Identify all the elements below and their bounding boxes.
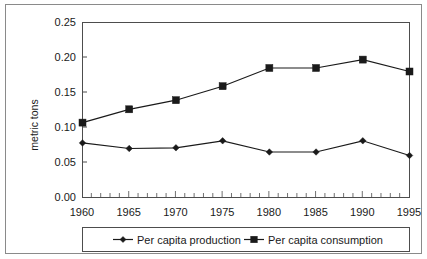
legend-item-2[interactable]: Per capita consumption bbox=[244, 234, 383, 246]
x-axis-minor-ticks bbox=[91, 191, 399, 198]
series-per-capita-consumption bbox=[79, 56, 413, 126]
data-point-1985-square-marker bbox=[313, 65, 320, 72]
line-chart: metric tons 0.25 0.20 0.15 0.10 0.05 0.0… bbox=[0, 0, 427, 259]
y-tick-label-0.10: 0.10 bbox=[55, 121, 76, 133]
data-point-1980-square-marker bbox=[266, 65, 273, 72]
legend-label: Per capita consumption bbox=[268, 234, 383, 246]
square-marker bbox=[251, 236, 258, 243]
legend-label: Per capita production bbox=[137, 234, 241, 246]
data-point-1985-diamond-marker bbox=[313, 149, 320, 156]
series-per-capita-production bbox=[79, 138, 413, 159]
data-point-1965-diamond-marker bbox=[126, 145, 132, 152]
x-tick-label-1980: 1980 bbox=[257, 206, 281, 218]
data-point-1975-square-marker bbox=[219, 83, 226, 90]
x-tick-label-1970: 1970 bbox=[163, 206, 187, 218]
y-tick-label-0.00: 0.00 bbox=[55, 191, 76, 203]
x-tick-label-1985: 1985 bbox=[303, 206, 327, 218]
data-point-1995-square-marker bbox=[406, 68, 413, 75]
data-point-1975-diamond-marker bbox=[219, 138, 226, 145]
legend-item-1[interactable]: Per capita production bbox=[113, 234, 241, 246]
data-point-1970-diamond-marker bbox=[173, 145, 180, 152]
x-tick-label-1975: 1975 bbox=[210, 206, 234, 218]
y-axis-title: metric tons bbox=[28, 99, 40, 150]
chart-figure: metric tons 0.25 0.20 0.15 0.10 0.05 0.0… bbox=[0, 0, 427, 259]
data-point-1995-diamond-marker bbox=[406, 152, 413, 159]
x-tick-label-1990: 1990 bbox=[350, 206, 374, 218]
data-point-1970-square-marker bbox=[172, 97, 179, 104]
y-tick-label-0.25: 0.25 bbox=[55, 16, 76, 28]
x-tick-label-1960: 1960 bbox=[70, 206, 94, 218]
y-tick-label-0.05: 0.05 bbox=[55, 156, 76, 168]
data-point-1990-diamond-marker bbox=[360, 138, 367, 145]
x-tick-label-1965: 1965 bbox=[116, 206, 140, 218]
data-point-1990-square-marker bbox=[359, 56, 366, 63]
diamond-marker bbox=[120, 237, 126, 243]
y-tick-label-0.15: 0.15 bbox=[55, 86, 76, 98]
data-point-1965-square-marker bbox=[126, 106, 133, 113]
x-tick-label-1995: 1995 bbox=[397, 206, 421, 218]
data-point-1960-square-marker bbox=[79, 119, 86, 126]
legend: Per capita productionPer capita consumpt… bbox=[113, 234, 383, 246]
data-series-layer bbox=[79, 56, 413, 159]
data-point-1980-diamond-marker bbox=[266, 149, 273, 156]
y-tick-label-0.20: 0.20 bbox=[55, 51, 76, 63]
series-line bbox=[83, 60, 410, 123]
data-point-1960-diamond-marker bbox=[79, 140, 86, 147]
